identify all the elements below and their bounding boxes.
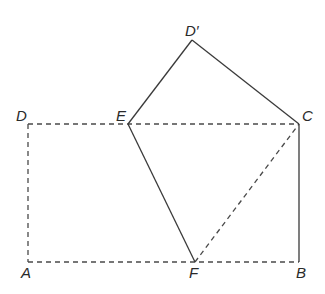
fold-diagram: D′ D E C A F B (0, 0, 325, 294)
label-a: A (20, 264, 31, 281)
segment-dprime-e (128, 40, 192, 124)
label-e: E (116, 107, 127, 124)
label-d-prime: D′ (185, 22, 200, 39)
label-f: F (189, 264, 199, 281)
label-c: C (302, 107, 313, 124)
label-d: D (16, 107, 27, 124)
segment-dprime-c (192, 40, 299, 124)
segment-fc (195, 124, 299, 262)
label-b: B (296, 264, 306, 281)
segment-ef (128, 124, 195, 262)
